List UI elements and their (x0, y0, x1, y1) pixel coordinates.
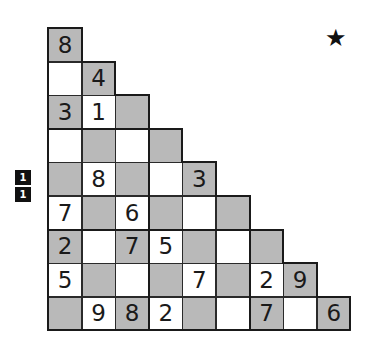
box-divider (249, 195, 251, 230)
grid-cell[interactable] (48, 162, 82, 196)
grid-cell[interactable] (182, 297, 216, 331)
grid-cell[interactable]: 6 (317, 297, 351, 331)
grid-cell[interactable] (115, 263, 149, 297)
grid-cell[interactable] (182, 196, 216, 230)
grid-cell[interactable] (115, 162, 149, 196)
clue-badge: 1 (15, 187, 31, 202)
grid-cell[interactable] (82, 230, 116, 264)
grid-cell[interactable] (250, 230, 284, 264)
grid-cell[interactable]: 5 (48, 263, 82, 297)
box-divider (282, 262, 317, 264)
grid-cell[interactable]: 9 (82, 297, 116, 331)
grid-cell[interactable]: 1 (82, 95, 116, 129)
box-divider (282, 229, 284, 264)
grid-cell[interactable]: 7 (115, 230, 149, 264)
grid-cell[interactable] (216, 297, 250, 331)
grid-cell[interactable] (149, 263, 183, 297)
star-icon: ★ (325, 26, 347, 50)
puzzle-grid: 84318376275572998276 (48, 28, 350, 337)
box-divider (181, 128, 183, 163)
grid-cell[interactable]: 7 (182, 263, 216, 297)
grid-cell[interactable] (115, 129, 149, 163)
grid-cell[interactable] (48, 129, 82, 163)
box-divider (215, 161, 217, 196)
grid-cell[interactable]: 3 (182, 162, 216, 196)
grid-cell[interactable]: 7 (48, 196, 82, 230)
box-divider (81, 27, 83, 62)
grid-cell[interactable]: 7 (250, 297, 284, 331)
grid-cell[interactable] (182, 230, 216, 264)
grid-cell[interactable] (82, 196, 116, 230)
grid-cell[interactable] (149, 162, 183, 196)
grid-cell[interactable]: 3 (48, 95, 82, 129)
box-divider (148, 94, 150, 129)
box-divider (47, 27, 49, 330)
grid-cell[interactable] (48, 297, 82, 331)
grid-cell[interactable] (82, 129, 116, 163)
box-divider (316, 262, 318, 297)
grid-cell[interactable] (48, 62, 82, 96)
grid-cell[interactable] (216, 263, 250, 297)
grid-cell[interactable] (149, 196, 183, 230)
grid-cell[interactable]: 2 (250, 263, 284, 297)
grid-cell[interactable]: 9 (283, 263, 317, 297)
box-divider (81, 61, 116, 63)
grid-cell[interactable]: 8 (115, 297, 149, 331)
box-divider (215, 195, 250, 197)
grid-cell[interactable] (149, 129, 183, 163)
clue-badge: 1 (15, 170, 31, 185)
box-divider (47, 27, 82, 29)
box-divider (349, 296, 351, 331)
grid-cell[interactable]: 5 (149, 230, 183, 264)
grid-cell[interactable]: 2 (48, 230, 82, 264)
grid-cell[interactable]: 6 (115, 196, 149, 230)
box-divider (48, 128, 150, 130)
box-divider (249, 229, 251, 331)
box-divider (316, 296, 351, 298)
grid-cell[interactable] (283, 297, 317, 331)
box-divider (249, 229, 284, 231)
grid-cell[interactable] (216, 196, 250, 230)
grid-cell[interactable]: 8 (82, 162, 116, 196)
grid-cell[interactable]: 8 (48, 28, 82, 62)
box-divider (181, 161, 216, 163)
grid-cell[interactable] (216, 230, 250, 264)
box-divider (114, 61, 116, 96)
box-divider (148, 128, 183, 130)
grid-cell[interactable] (115, 95, 149, 129)
box-divider (47, 329, 350, 331)
box-divider (114, 94, 149, 96)
grid-cell[interactable] (82, 263, 116, 297)
grid-cell[interactable]: 2 (149, 297, 183, 331)
box-divider (148, 128, 150, 331)
grid-cell[interactable]: 4 (82, 62, 116, 96)
